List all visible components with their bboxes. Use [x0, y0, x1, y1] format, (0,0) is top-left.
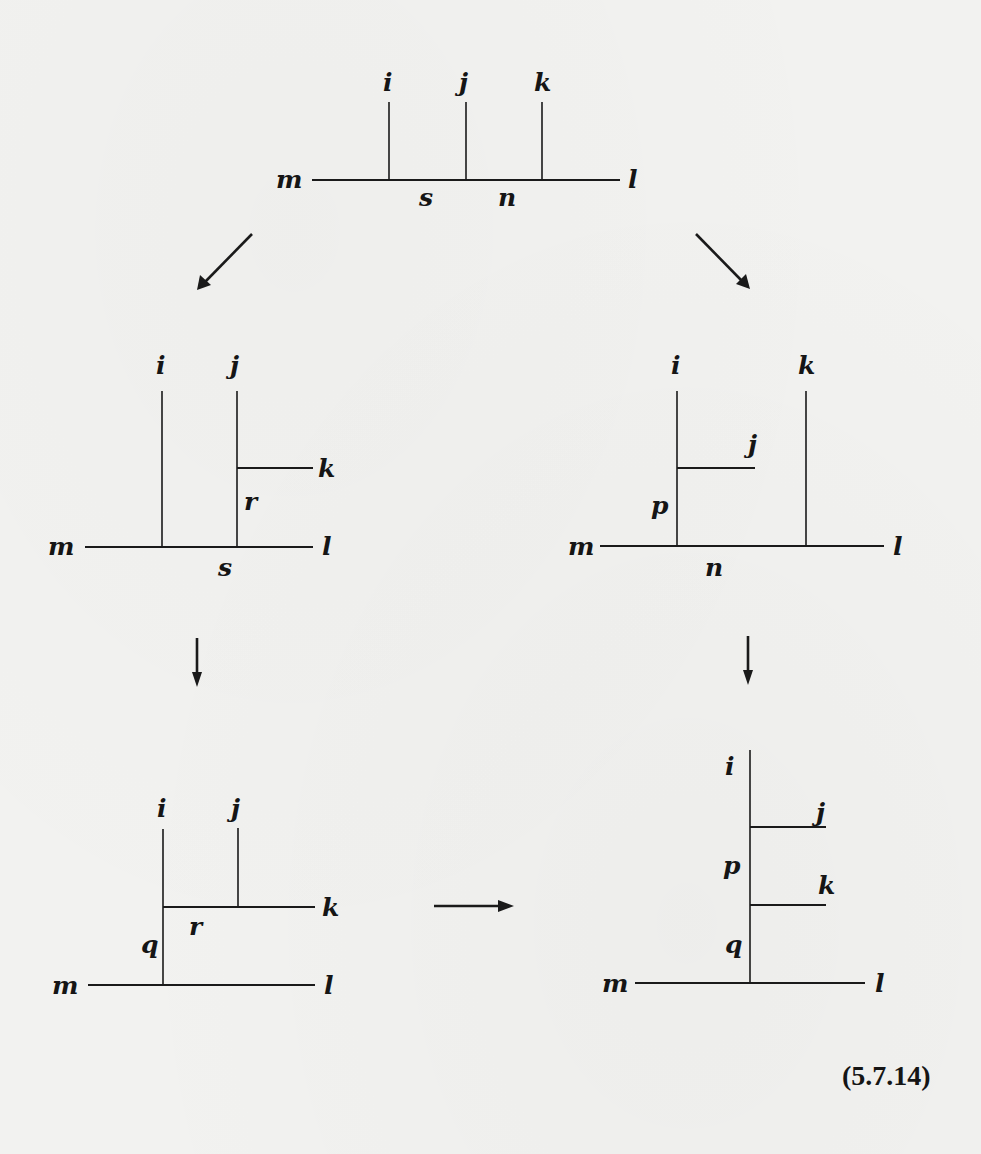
- ml-label-j: j: [225, 351, 239, 380]
- top-label-m: m: [276, 165, 302, 194]
- arrowhead-icon: [743, 670, 753, 685]
- arrow-right: [434, 900, 514, 912]
- br-label-l: l: [875, 969, 885, 998]
- mr-label-j: j: [743, 430, 757, 459]
- br-label-j: j: [811, 798, 825, 827]
- diagram-bottom-left: i j k r q m l: [52, 794, 339, 1000]
- mr-label-n: n: [705, 553, 723, 582]
- bl-label-j: j: [226, 794, 240, 823]
- diagram-middle-left: i j k r m l s: [48, 351, 335, 582]
- ml-label-l: l: [322, 532, 332, 561]
- mr-label-m: m: [568, 532, 594, 561]
- bl-label-l: l: [324, 971, 334, 1000]
- bl-label-m: m: [52, 971, 78, 1000]
- mr-label-l: l: [893, 532, 903, 561]
- ml-label-r: r: [244, 487, 259, 516]
- diagram-middle-right: i k j p m l n: [568, 351, 903, 582]
- ml-label-m: m: [48, 532, 74, 561]
- ml-label-s: s: [217, 553, 232, 582]
- book-page: i j k m l s n i j k r m l: [0, 0, 981, 1154]
- br-label-m: m: [602, 969, 628, 998]
- diagram-bottom-right: i j p k q m l: [602, 750, 885, 998]
- arrow-down-right: [696, 234, 750, 289]
- br-label-k: k: [818, 871, 835, 900]
- arrowhead-icon: [498, 900, 514, 912]
- diagram-top: i j k m l s n: [276, 68, 638, 212]
- arrow-down-left-column: [192, 638, 202, 687]
- top-label-s: s: [418, 183, 433, 212]
- mr-label-i: i: [671, 351, 681, 380]
- br-label-p: p: [723, 851, 741, 880]
- pentagon-diagram: i j k m l s n i j k r m l: [0, 0, 981, 1154]
- top-label-n: n: [498, 183, 516, 212]
- mr-label-k: k: [798, 351, 815, 380]
- top-label-l: l: [628, 165, 638, 194]
- equation-number: (5.7.14): [842, 1060, 931, 1092]
- mr-label-p: p: [651, 491, 669, 520]
- ml-label-i: i: [156, 351, 166, 380]
- br-label-q: q: [725, 930, 742, 959]
- bl-label-r: r: [189, 912, 204, 941]
- bl-label-k: k: [322, 893, 339, 922]
- bl-label-q: q: [141, 930, 158, 959]
- top-label-j: j: [454, 68, 468, 97]
- top-label-i: i: [383, 68, 393, 97]
- bl-label-i: i: [157, 794, 167, 823]
- arrow-down-right-column: [743, 636, 753, 685]
- ml-label-k: k: [318, 454, 335, 483]
- arrow-down-left: [197, 234, 252, 290]
- arrowhead-icon: [192, 672, 202, 687]
- br-label-i: i: [725, 752, 735, 781]
- top-label-k: k: [534, 68, 551, 97]
